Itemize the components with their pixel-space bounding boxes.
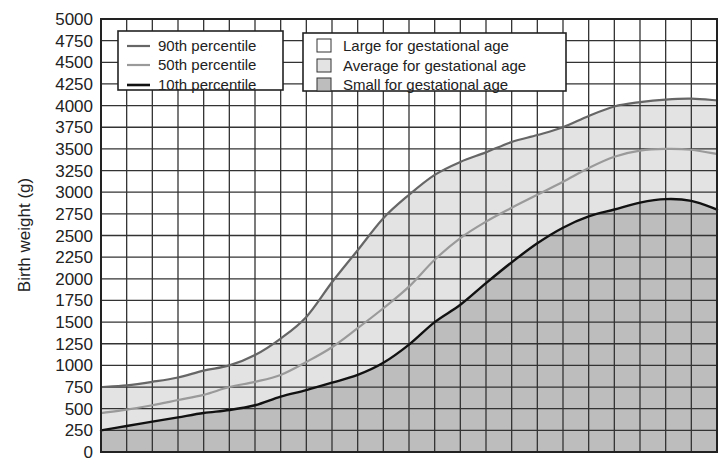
legend-label-10th: 10th percentile bbox=[158, 76, 256, 93]
y-axis-tick-labels: 0250500750100012501500175020002250250027… bbox=[55, 10, 93, 462]
legend-label-average: Average for gestational age bbox=[343, 57, 526, 74]
y-tick-label: 0 bbox=[84, 443, 93, 462]
y-tick-label: 1750 bbox=[55, 291, 93, 310]
y-tick-label: 3750 bbox=[55, 118, 93, 137]
legend-regions: Large for gestational age Average for ge… bbox=[303, 33, 566, 93]
y-tick-label: 1500 bbox=[55, 313, 93, 332]
y-tick-label: 4500 bbox=[55, 53, 93, 72]
y-tick-label: 2500 bbox=[55, 227, 93, 246]
legend-swatch-small bbox=[317, 78, 331, 91]
y-tick-label: 4000 bbox=[55, 97, 93, 116]
y-tick-label: 4250 bbox=[55, 75, 93, 94]
legend-percentile-lines: 90th percentile 50th percentile 10th per… bbox=[118, 31, 283, 93]
birth-weight-chart: 0250500750100012501500175020002250250027… bbox=[0, 0, 722, 471]
y-tick-label: 1250 bbox=[55, 335, 93, 354]
y-tick-label: 3250 bbox=[55, 162, 93, 181]
y-tick-label: 2750 bbox=[55, 205, 93, 224]
legend-swatch-average bbox=[317, 59, 331, 72]
y-tick-label: 4750 bbox=[55, 32, 93, 51]
legend-item-average: Average for gestational age bbox=[317, 57, 526, 74]
y-tick-label: 2250 bbox=[55, 248, 93, 267]
y-tick-label: 5000 bbox=[55, 10, 93, 29]
y-tick-label: 750 bbox=[65, 378, 93, 397]
y-tick-label: 250 bbox=[65, 421, 93, 440]
y-tick-label: 3500 bbox=[55, 140, 93, 159]
legend-label-90th: 90th percentile bbox=[158, 37, 256, 54]
legend-label-small: Small for gestational age bbox=[343, 76, 508, 93]
legend-label-50th: 50th percentile bbox=[158, 56, 256, 73]
y-tick-label: 3000 bbox=[55, 183, 93, 202]
legend-item-large: Large for gestational age bbox=[317, 37, 509, 54]
y-tick-label: 1000 bbox=[55, 356, 93, 375]
legend-swatch-large bbox=[317, 39, 331, 52]
y-axis-label: Birth weight (g) bbox=[15, 178, 34, 292]
legend-label-large: Large for gestational age bbox=[343, 37, 509, 54]
y-tick-label: 2000 bbox=[55, 270, 93, 289]
y-tick-label: 500 bbox=[65, 400, 93, 419]
legend-item-small: Small for gestational age bbox=[317, 76, 508, 93]
